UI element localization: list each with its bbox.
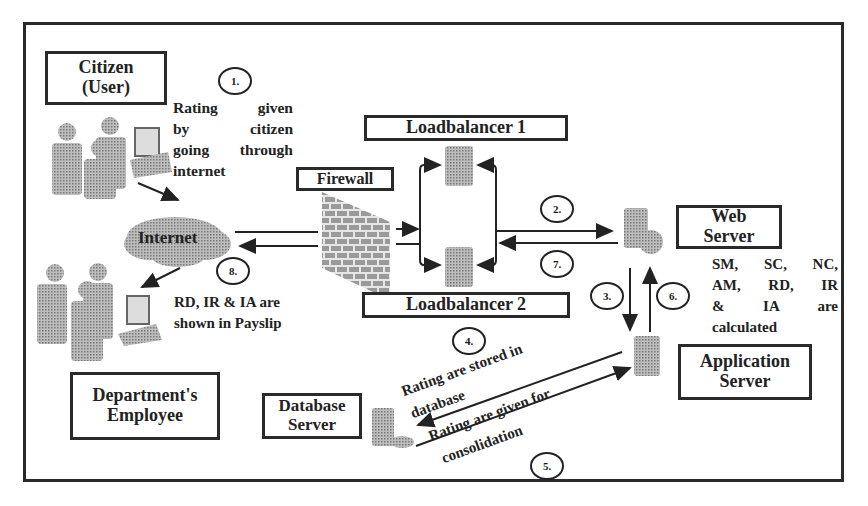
internet-label: Internet	[138, 228, 197, 248]
employee-label-line2: Employee	[107, 406, 183, 426]
step-6-line: & IA are	[712, 296, 838, 317]
step-1-description: Rating given by citizen going through in…	[173, 97, 293, 181]
step-4-badge: 4.	[452, 327, 486, 355]
database-server-icon	[372, 408, 414, 448]
step-1-line: internet	[173, 160, 293, 181]
database-server-label-line1: Database	[278, 397, 345, 416]
loadbalancer2-server-icon	[445, 247, 473, 287]
arrow-internet-to-employee	[142, 268, 180, 287]
citizen-label-box: Citizen (User)	[45, 51, 167, 105]
database-server-label-line2: Server	[288, 416, 336, 435]
lb-right-bracket	[480, 165, 496, 265]
web-server-label-line2: Server	[704, 227, 755, 247]
step-6-description: SM, SC, NC, AM, RD, IR & IA are calculat…	[712, 254, 838, 338]
firewall-label: Firewall	[317, 170, 374, 188]
step-6-line: AM, RD, IR	[712, 275, 838, 296]
loadbalancer2-label-box: Loadbalancer 2	[362, 292, 570, 318]
citizen-label-line1: Citizen	[79, 58, 134, 78]
step-6-line: calculated	[712, 317, 838, 338]
application-server-label-box: Application Server	[678, 344, 812, 400]
step-8-line: shown in Payslip	[174, 313, 282, 334]
loadbalancer1-label: Loadbalancer 1	[406, 118, 526, 138]
step-5-badge: 5.	[530, 452, 564, 480]
step-7-badge: 7.	[540, 250, 574, 278]
employee-label-line1: Department's	[93, 386, 198, 406]
employee-computer-icon	[118, 296, 162, 346]
web-server-icon	[624, 208, 663, 254]
step-1-line: by citizen	[173, 118, 293, 139]
citizen-label-line2: (User)	[82, 78, 130, 98]
step-6-line: SM, SC, NC,	[712, 254, 838, 275]
step-1-badge: 1.	[218, 67, 252, 95]
loadbalancer2-label: Loadbalancer 2	[406, 295, 526, 315]
database-server-label-box: Database Server	[262, 393, 362, 439]
citizen-users-icon	[52, 117, 126, 199]
arrow-citizen-to-internet	[138, 183, 178, 200]
employee-label-box: Department's Employee	[70, 372, 220, 440]
firewall-icon	[322, 192, 390, 300]
citizen-computer-icon	[130, 128, 172, 178]
loadbalancer1-label-box: Loadbalancer 1	[364, 115, 568, 141]
step-6-badge: 6.	[656, 282, 690, 310]
application-server-label-line1: Application	[700, 352, 790, 372]
application-server-label-line2: Server	[720, 372, 771, 392]
step-1-line: Rating given	[173, 97, 293, 118]
step-8-line: RD, IR & IA are	[174, 292, 282, 313]
step-8-description: RD, IR & IA are shown in Payslip	[174, 292, 282, 334]
step-1-line: going through	[173, 139, 293, 160]
web-server-label-line1: Web	[711, 207, 746, 227]
loadbalancer1-server-icon	[445, 146, 473, 186]
step-3-badge: 3.	[590, 282, 624, 310]
lb-left-bracket	[420, 165, 438, 265]
step-2-badge: 2.	[540, 195, 574, 223]
firewall-label-box: Firewall	[296, 167, 394, 191]
application-server-icon	[634, 336, 660, 376]
web-server-label-box: Web Server	[676, 205, 782, 249]
arrow-appserver-to-database	[418, 352, 622, 425]
step-8-badge: 8.	[216, 257, 250, 285]
employee-users-icon	[37, 263, 113, 361]
